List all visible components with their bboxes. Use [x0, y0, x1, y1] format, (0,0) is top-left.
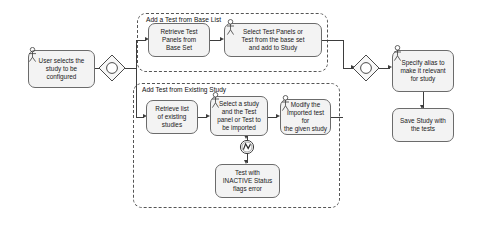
connector-modify-to-join — [331, 117, 343, 118]
node-save-study-with-tests[interactable]: Save Study with the tests — [392, 108, 454, 142]
node-select-test-panels-from-base-set[interactable]: Select Test Panels or Test from the base… — [224, 23, 322, 57]
actor-icon-select-test-panels — [226, 19, 235, 36]
actor-icon-specify-alias — [393, 45, 402, 62]
connector-join-trunk — [343, 40, 344, 68]
decision-node-fork[interactable] — [98, 54, 126, 82]
actor-icon-select-study-and-test — [211, 92, 220, 109]
error-event-icon — [239, 139, 255, 155]
node-label-retrieve-existing-studies: Retrieve list of existing studies — [155, 105, 188, 129]
node-label-inactive-status-error: Test with INACTIVE Status flags error — [223, 169, 272, 193]
node-label-specify-alias: Specify alias to make it relevant for st… — [400, 59, 445, 83]
connector-fork-trunk — [136, 40, 137, 118]
node-retrieve-existing-studies[interactable]: Retrieve list of existing studies — [146, 100, 198, 134]
connector-select-base-to-join — [322, 40, 344, 41]
node-label-user-selects-study: User selects the study to be configured — [39, 57, 85, 81]
activity-diagram-canvas: Add a Test from Base List Add Test from … — [0, 0, 479, 225]
node-retrieve-test-panels-from-base-set[interactable]: Retrieve Test Panels from Base Set — [148, 23, 210, 57]
node-label-select-study-and-test: Select a study and the Test panel or Tes… — [217, 100, 261, 132]
node-label-select-test-panels: Select Test Panels or Test from the base… — [242, 28, 305, 52]
node-user-selects-study[interactable]: User selects the study to be configured — [28, 50, 95, 88]
actor-icon-modify-imported-test — [281, 95, 290, 112]
decision-node-join[interactable] — [352, 54, 380, 82]
node-label-save-study-with-tests: Save Study with the tests — [400, 117, 446, 133]
actor-icon-user-selects-study — [28, 47, 37, 63]
node-label-retrieve-test-panels: Retrieve Test Panels from Base Set — [160, 28, 197, 52]
node-inactive-status-error[interactable]: Test with INACTIVE Status flags error — [215, 164, 280, 198]
